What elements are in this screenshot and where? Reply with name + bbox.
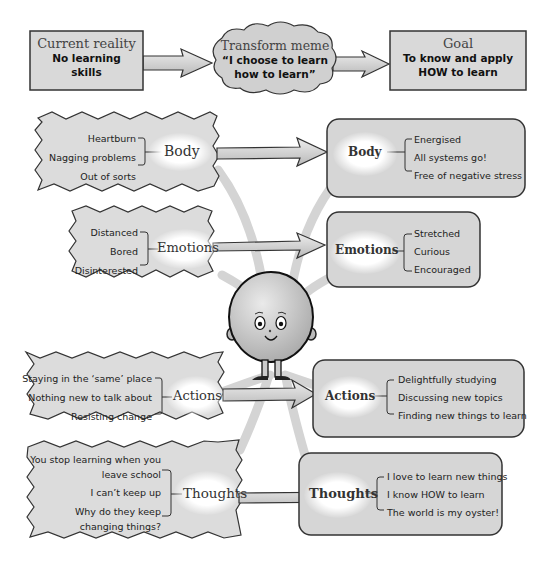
before-actions-item: Staying in the ‘same’ place xyxy=(22,369,152,388)
before-thoughts-item: You stop learning when you xyxy=(30,452,161,467)
before-body-items: Heartburn Nagging problems Out of sorts xyxy=(49,129,136,186)
before-body-item: Nagging problems xyxy=(49,148,136,167)
after-emotions-items: Stretched Curious Encouraged xyxy=(414,225,471,279)
after-thoughts-label: Thoughts xyxy=(309,486,378,501)
current-reality-line2: skills xyxy=(30,65,143,79)
after-actions-item: Discussing new topics xyxy=(398,389,527,407)
before-thoughts-label: Thoughts xyxy=(183,485,247,501)
goal-line2: HOW to learn xyxy=(390,65,526,79)
goal-box: Goal To know and apply HOW to learn xyxy=(390,36,526,79)
after-emotions-item: Curious xyxy=(414,243,471,261)
after-actions-items: Delightfully studying Discussing new top… xyxy=(398,371,527,425)
before-emotions-item: Bored xyxy=(75,242,138,261)
after-body-items: Energised All systems go! Free of negati… xyxy=(414,131,522,185)
before-body-item: Out of sorts xyxy=(49,167,136,186)
after-actions-item: Finding new things to learn xyxy=(398,407,527,425)
before-emotions-label: Emotions xyxy=(157,240,219,255)
after-emotions-label: Emotions xyxy=(335,243,398,257)
before-thoughts-item: leave school xyxy=(30,467,161,482)
after-body-item: Energised xyxy=(414,131,522,149)
after-emotions-item: Encouraged xyxy=(414,261,471,279)
after-body-item: All systems go! xyxy=(414,149,522,167)
after-body-label: Body xyxy=(348,145,382,159)
after-emotions-item: Stretched xyxy=(414,225,471,243)
before-thoughts-item: changing things? xyxy=(30,519,161,534)
before-actions-item: Nothing new to talk about xyxy=(22,388,152,407)
before-actions-item: Resisting change xyxy=(22,407,152,426)
meme-line1: “I choose to learn xyxy=(210,53,340,67)
after-thoughts-item: I love to learn new things xyxy=(387,468,507,486)
before-emotions-item: Disinterested xyxy=(75,261,138,280)
after-actions-item: Delightfully studying xyxy=(398,371,527,389)
current-reality-line1: No learning xyxy=(30,51,143,65)
goal-title: Goal xyxy=(390,36,526,51)
before-actions-label: Actions xyxy=(173,388,222,403)
after-thoughts-item: The world is my oyster! xyxy=(387,504,507,522)
before-body-label: Body xyxy=(164,143,200,159)
after-actions-label: Actions xyxy=(325,389,375,403)
before-thoughts-item: I can’t keep up xyxy=(30,482,161,504)
transform-meme-cloud: Transform meme “I choose to learn how to… xyxy=(210,38,340,81)
before-emotions-items: Distanced Bored Disinterested xyxy=(75,223,138,280)
after-thoughts-items: I love to learn new things I know HOW to… xyxy=(387,468,507,522)
before-actions-items: Staying in the ‘same’ place Nothing new … xyxy=(22,369,152,426)
goal-line1: To know and apply xyxy=(390,51,526,65)
after-body-item: Free of negative stress xyxy=(414,167,522,185)
current-reality-box: Current reality No learning skills xyxy=(30,36,143,79)
meme-title: Transform meme xyxy=(210,38,340,53)
before-thoughts-item: Why do they keep xyxy=(30,504,161,519)
meme-line2: how to learn” xyxy=(210,67,340,81)
after-thoughts-item: I know HOW to learn xyxy=(387,486,507,504)
before-thoughts-items: You stop learning when you leave school … xyxy=(30,452,161,534)
before-emotions-item: Distanced xyxy=(75,223,138,242)
before-body-item: Heartburn xyxy=(49,129,136,148)
character-figure xyxy=(227,272,316,380)
current-reality-title: Current reality xyxy=(30,36,143,51)
